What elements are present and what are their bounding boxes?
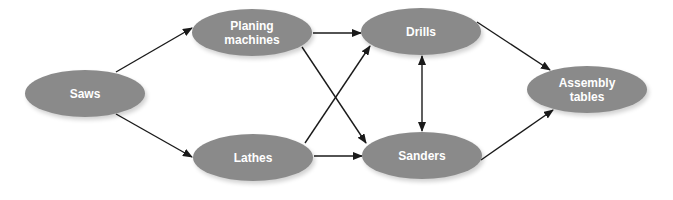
node-label: Planing machines (192, 19, 312, 47)
node-lathes: Lathes (193, 134, 313, 181)
process-flow-diagram: Saws Planing machines Lathes Drills Sand… (0, 0, 673, 200)
edge-drills-assembly (477, 22, 550, 70)
node-label: Sanders (384, 149, 459, 163)
node-drills: Drills (361, 8, 481, 55)
node-label: Assembly tables (527, 76, 647, 104)
node-label: Drills (392, 25, 450, 39)
edge-planing-sanders (302, 47, 366, 143)
node-label: Lathes (220, 151, 287, 165)
node-sanders: Sanders (362, 132, 482, 179)
edge-sanders-assembly (481, 110, 553, 160)
edge-lathes-drills (305, 46, 370, 143)
node-label: Saws (56, 87, 115, 101)
edge-saws-planing (116, 28, 192, 72)
node-saws: Saws (25, 70, 145, 117)
node-assembly-tables: Assembly tables (527, 66, 647, 113)
edge-saws-lathes (116, 114, 192, 157)
node-planing-machines: Planing machines (192, 9, 312, 56)
